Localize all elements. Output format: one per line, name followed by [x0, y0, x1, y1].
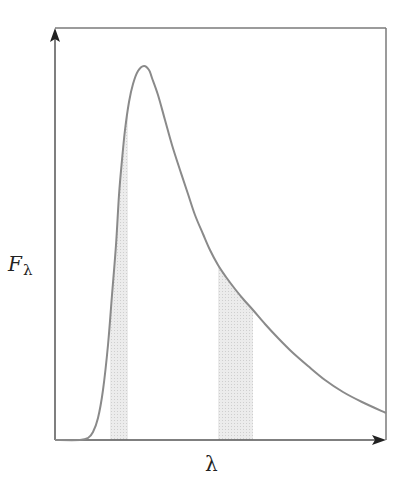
spectrum-chart	[0, 0, 402, 490]
band-2	[218, 28, 253, 440]
x-axis-label: λ	[205, 452, 218, 476]
band-1	[110, 28, 128, 440]
y-axis-label: Fλ	[8, 252, 32, 279]
